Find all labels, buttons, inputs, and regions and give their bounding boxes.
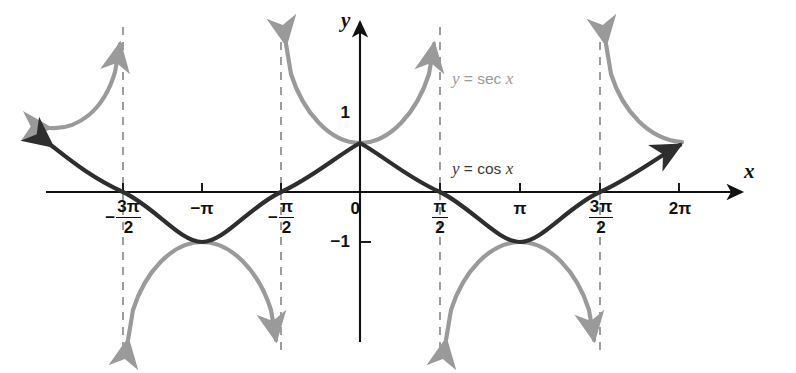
cos-annotation-body: = cos [464,160,501,177]
x-tick-label-neg-pi: −π [176,200,228,217]
cos-curve-annotation: y = cos x [452,160,513,177]
fraction-neg-3pi-over-2: 3π2 [116,198,140,237]
minus-sign-neg-pi-over-2: − [268,209,279,226]
x-tick-label-pi: π [496,200,544,217]
x-tick-label-2pi: 2π [655,200,705,217]
fraction-denominator: 2 [116,218,140,237]
sec-branch-upper-right [606,44,682,142]
sec-annotation-variable: y [452,69,460,88]
x-tick-label-neg-pi-over-2: −π2 [250,198,312,237]
x-tick-label-pi-over-2: π2 [418,198,462,237]
fraction-denominator: 2 [589,218,613,237]
x-axis-label: x [744,159,755,184]
sec-branch-lower-left [128,242,276,340]
sec-annotation-argument: x [506,69,514,88]
fraction-denominator: 2 [279,218,294,237]
y-tick-label-minus-one: −1 [310,233,350,250]
plot-canvas [0,0,796,373]
x-tick-label-neg-3pi-over-2: −3π2 [90,198,156,237]
sec-branch-left-edge [50,44,120,128]
y-axis-label: y [341,8,350,33]
fraction-numerator: 3π [116,198,140,218]
secant-cosine-graph-figure: y x y = sec x y = cos x −3π2 −π −π2 0 π2… [0,0,796,373]
fraction-numerator: 3π [589,198,613,218]
minus-sign-neg-3pi-over-2: − [105,209,116,226]
fraction-neg-pi-over-2: π2 [279,198,294,237]
cos-annotation-argument: x [506,159,514,178]
fraction-pi-over-2: π2 [432,198,447,237]
x-tick-label-3pi-over-2: 3π2 [576,198,626,237]
sec-annotation-body: = sec [464,70,501,87]
fraction-numerator: π [279,198,294,218]
x-tick-label-zero: 0 [334,200,360,217]
fraction-3pi-over-2: 3π2 [589,198,613,237]
sec-branch-lower-right [446,242,594,340]
fraction-numerator: π [432,198,447,218]
sec-curve-annotation: y = sec x [452,70,513,87]
cos-annotation-variable: y [452,159,460,178]
asymptote-group [123,27,600,352]
y-tick-label-one: 1 [322,104,350,121]
fraction-denominator: 2 [432,218,447,237]
x-tick-marks [123,183,679,192]
